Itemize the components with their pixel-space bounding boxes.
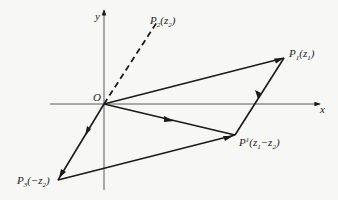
vector-p3-pprime [58, 135, 235, 180]
origin-label: O [93, 91, 101, 103]
point-label-pprime: P1(z1−z2) [238, 136, 280, 151]
vector-p1-pprime [235, 58, 284, 135]
arrowhead-p1-pprime [255, 90, 261, 99]
x-axis-label: x [319, 103, 325, 115]
vector-subtraction-diagram: y x O P2(z2) P1(z1) P1(z1−z2) P3(−z2) [0, 0, 338, 200]
point-label-p3: P3(−z2) [16, 174, 50, 189]
diagram-canvas: y x O P2(z2) P1(z1) P1(z1−z2) P3(−z2) [0, 0, 338, 200]
point-label-p1: P1(z1) [288, 47, 315, 62]
arrowhead-p3-pprime [223, 136, 233, 141]
vector-op1 [104, 58, 284, 104]
arrowhead-opprime [164, 116, 174, 122]
arrowhead-op3-end [59, 169, 66, 178]
vector-op3 [58, 104, 104, 180]
y-axis-label: y [94, 10, 100, 22]
